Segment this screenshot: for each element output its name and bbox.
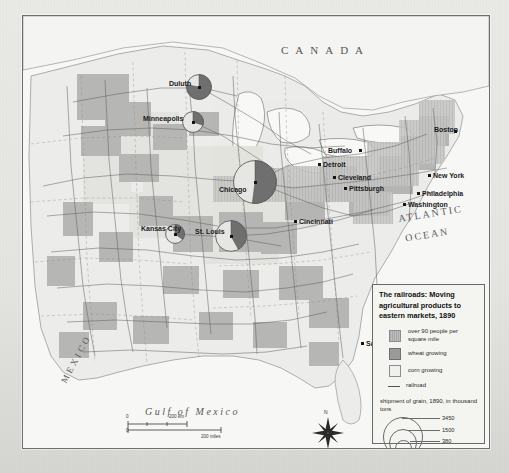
compass-north-label: N (324, 409, 328, 415)
city-marker-boston (454, 130, 457, 133)
wheat-growing-swatch-icon (389, 348, 401, 360)
compass-star-icon (311, 409, 345, 449)
city-marker-buffalo (359, 149, 362, 152)
city-marker-st-louis (230, 235, 233, 238)
city-marker-philadelphia (417, 192, 420, 195)
legend-label-wheat-growing: wheat growing (408, 350, 447, 358)
scale-zero-top: 0 (126, 414, 129, 419)
legend-entry-corn-growing: corn growing (379, 365, 478, 377)
shipment-value-small: 380 (442, 438, 451, 444)
scale-miles-label: 200 miles (201, 434, 221, 439)
scale-km-label: 200 km (169, 414, 184, 419)
shipment-tick-small (410, 441, 440, 442)
city-marker-duluth (198, 86, 201, 89)
legend-entry-population-density: over 90 people per square mile (379, 328, 478, 344)
legend-label-railroad: railroad (406, 382, 426, 390)
shipment-value-medium: 1500 (442, 427, 454, 433)
legend-entry-railroad: railroad (379, 382, 478, 390)
city-marker-washington (403, 203, 406, 206)
city-marker-minneapolis (192, 121, 195, 124)
map-page: DuluthMinneapolisChicagoDetroitBuffaloCl… (0, 0, 509, 473)
legend-label-corn-growing: corn growing (408, 367, 442, 375)
city-marker-kansas-city (174, 233, 177, 236)
city-marker-cleveland (333, 176, 336, 179)
legend-title: The railroads: Moving agricultural produ… (379, 290, 478, 322)
scale-zero-bottom: 0 (126, 428, 129, 433)
population-density-swatch-icon (389, 330, 401, 342)
city-marker-savannah (361, 342, 364, 345)
city-marker-detroit (318, 163, 321, 166)
compass-rose: N (311, 409, 345, 449)
corn-growing-swatch-icon (389, 365, 401, 377)
shipment-scale-circles: 3450 1500 380 (379, 415, 478, 449)
railroad-line-icon (388, 386, 400, 387)
shipment-tick-large (402, 418, 440, 419)
shipment-tick-medium (408, 430, 440, 431)
scale-bar: 0 200 km 0 200 miles (127, 420, 223, 434)
map-plate: DuluthMinneapolisChicagoDetroitBuffaloCl… (22, 15, 490, 449)
shipment-value-large: 3450 (442, 415, 454, 421)
city-marker-new-york (428, 174, 431, 177)
legend-entry-wheat-growing: wheat growing (379, 348, 478, 360)
city-marker-pittsburgh (344, 187, 347, 190)
city-marker-chicago (254, 181, 257, 184)
scale-graphic (127, 420, 223, 434)
legend-label-population-density: over 90 people per square mile (408, 328, 478, 344)
shipment-caption: shipment of grain, 1890, in thousand ton… (380, 397, 478, 413)
city-marker-cincinnati (294, 220, 297, 223)
map-legend: The railroads: Moving agricultural produ… (372, 284, 485, 444)
